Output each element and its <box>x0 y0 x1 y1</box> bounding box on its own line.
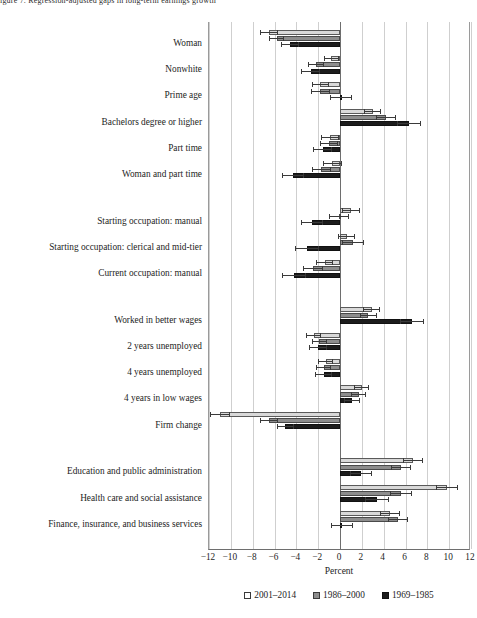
error-bar <box>301 71 321 72</box>
error-bar <box>342 210 359 211</box>
error-bar <box>350 473 372 474</box>
error-bar <box>331 525 353 526</box>
legend-swatch-icon <box>244 592 251 599</box>
x-axis-ticks: −12−10−8−6−4−2024681012 <box>208 552 470 566</box>
x-tick-label: −6 <box>269 552 279 562</box>
legend-swatch-icon <box>382 592 389 599</box>
bar <box>340 485 447 490</box>
error-bar <box>309 347 326 348</box>
error-bar <box>277 426 294 427</box>
category-label: 2 years unemployed <box>127 341 202 351</box>
error-bar <box>360 315 377 316</box>
error-bar <box>403 460 423 461</box>
x-tick-label: −10 <box>223 552 238 562</box>
category-label: Starting occupation: manual <box>97 216 202 226</box>
gridline <box>362 22 363 549</box>
error-bar <box>311 91 331 92</box>
error-bar <box>318 361 333 362</box>
category-axis-labels: WomanNonwhitePrime ageBachelors degree o… <box>0 22 206 550</box>
plot-area <box>208 22 470 550</box>
gridline <box>318 22 319 549</box>
error-bar <box>210 414 230 415</box>
legend-item: 2001–2014 <box>244 590 296 600</box>
gridline <box>253 22 254 549</box>
legend-item: 1969–1985 <box>382 590 434 600</box>
error-bar <box>380 513 400 514</box>
error-bar <box>390 493 412 494</box>
error-bar <box>324 58 339 59</box>
gridline <box>427 22 428 549</box>
error-bar <box>301 222 323 223</box>
error-bar <box>303 268 323 269</box>
gridline <box>296 22 297 549</box>
category-label: Nonwhite <box>165 64 202 74</box>
gridline <box>406 22 407 549</box>
x-tick-label: −4 <box>290 552 300 562</box>
error-bar <box>282 275 306 276</box>
category-label: Finance, insurance, and business service… <box>48 519 202 529</box>
error-bar <box>282 175 304 176</box>
error-bar <box>365 499 389 500</box>
category-label: Woman <box>173 38 202 48</box>
error-bar <box>364 111 381 112</box>
legend-label: 1986–2000 <box>323 590 365 600</box>
legend-label: 1969–1985 <box>392 590 434 600</box>
category-label: Starting occupation: clerical and mid-ti… <box>49 242 202 252</box>
category-label: Bachelors degree or higher <box>102 117 202 127</box>
category-label: Prime age <box>165 90 202 100</box>
error-bar <box>306 335 321 336</box>
figure-note: igure 7. Regression-adjusted gaps in lon… <box>0 0 477 8</box>
error-bar <box>308 64 323 65</box>
x-tick-label: 0 <box>337 552 342 562</box>
category-label: Woman and part time <box>122 169 202 179</box>
category-label: Health care and social assistance <box>80 493 202 503</box>
gridline <box>209 22 210 549</box>
category-label: Current occupation: manual <box>98 268 202 278</box>
error-bar <box>388 519 408 520</box>
legend-label: 2001–2014 <box>254 590 296 600</box>
gridline <box>384 22 385 549</box>
error-bar <box>312 169 332 170</box>
error-bar <box>316 262 333 263</box>
category-label: Part time <box>168 143 202 153</box>
error-bar <box>312 84 329 85</box>
error-bar <box>321 137 338 138</box>
error-bar <box>315 374 332 375</box>
error-bar <box>269 38 284 39</box>
error-bar <box>391 467 411 468</box>
error-bar <box>320 143 337 144</box>
x-tick-label: 10 <box>444 552 453 562</box>
error-bar <box>329 216 349 217</box>
gridline <box>471 22 472 549</box>
x-tick-label: 6 <box>402 552 407 562</box>
error-bar <box>295 248 319 249</box>
category-label: 4 years in low wages <box>124 393 202 403</box>
error-bar <box>351 394 366 395</box>
bar <box>340 458 413 463</box>
bar <box>269 30 340 35</box>
category-label: 4 years unemployed <box>127 367 202 377</box>
error-bar <box>338 236 355 237</box>
error-bar <box>260 32 277 33</box>
error-bar <box>400 321 424 322</box>
category-label: Firm change <box>155 420 202 430</box>
legend-item: 1986–2000 <box>313 590 365 600</box>
error-bar <box>323 163 343 164</box>
error-bar <box>260 420 277 421</box>
x-tick-label: 8 <box>424 552 429 562</box>
error-bar <box>376 117 396 118</box>
gridline <box>449 22 450 549</box>
bar <box>277 36 340 41</box>
legend-swatch-icon <box>313 592 320 599</box>
error-bar <box>354 387 369 388</box>
x-axis-title: Percent <box>208 566 470 576</box>
error-bar <box>363 309 380 310</box>
error-bar <box>397 123 421 124</box>
error-bar <box>313 149 333 150</box>
error-bar <box>330 97 352 98</box>
figure-container: igure 7. Regression-adjusted gaps in lon… <box>0 0 477 618</box>
legend: 2001–20141986–20001969–1985 <box>208 590 470 600</box>
error-bar <box>316 367 331 368</box>
gridline <box>275 22 276 549</box>
x-tick-label: −2 <box>312 552 322 562</box>
